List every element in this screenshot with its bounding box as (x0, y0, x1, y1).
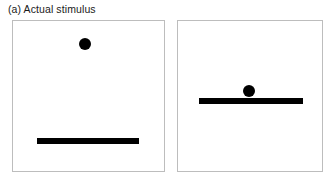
stimulus-dot-right (243, 85, 255, 97)
stimulus-panel-right (177, 20, 323, 172)
stimulus-bar-left (37, 138, 140, 144)
stimulus-bar-right (199, 98, 304, 104)
figure-caption: (a) Actual stimulus (8, 3, 96, 16)
stimulus-panel-left (12, 20, 165, 172)
stimulus-dot-left (79, 38, 91, 50)
figure-container: (a) Actual stimulus (0, 0, 336, 180)
